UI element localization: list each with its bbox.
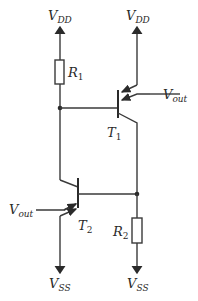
vdd-right-terminal: VDD <box>126 8 150 85</box>
resistor-r2-label: R2 <box>112 224 129 241</box>
circuit-diagram: VDD VDD R1 Vout T1 Vout T2 <box>0 0 198 301</box>
t1-vout-label: Vout <box>163 87 188 104</box>
vss-left-terminal: VSS <box>49 216 71 293</box>
transistor-t1: Vout T1 <box>60 85 188 194</box>
resistor-r1-label: R1 <box>67 65 84 82</box>
t1-label: T1 <box>107 125 121 142</box>
resistor-r1-body <box>55 60 64 84</box>
t2-collector-wire <box>60 180 78 187</box>
vdd-left-terminal: VDD <box>48 8 72 60</box>
vss-left-label: VSS <box>49 276 71 293</box>
t2-vout-label: Vout <box>9 202 34 219</box>
vdd-left-label: VDD <box>48 8 72 25</box>
t1-emitter-2-arrow-icon <box>122 94 150 100</box>
resistor-r1: R1 <box>55 60 84 84</box>
vdd-right-label: VDD <box>126 8 150 25</box>
t1-emitter-1-arrow-icon <box>122 85 137 92</box>
resistor-r2: R2 <box>112 194 142 243</box>
vss-right-terminal: VSS <box>127 243 149 293</box>
t1-collector-wire <box>118 113 137 194</box>
t2-label: T2 <box>78 218 92 235</box>
resistor-r2-body <box>132 218 142 243</box>
vss-right-label: VSS <box>127 276 149 293</box>
